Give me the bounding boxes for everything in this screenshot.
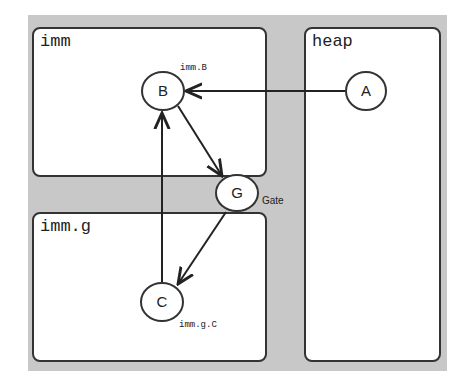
node-b: B imm.B xyxy=(142,63,208,110)
node-g-caption: Gate xyxy=(262,195,284,206)
node-c-label: C xyxy=(157,293,168,310)
graph-layer: B imm.B A G Gate C imm.g.C xyxy=(0,0,473,386)
node-c-caption: imm.g.C xyxy=(179,320,217,330)
node-b-label: B xyxy=(158,82,168,99)
node-g: G Gate xyxy=(216,175,284,211)
node-a-label: A xyxy=(361,82,371,99)
node-g-label: G xyxy=(231,184,243,201)
node-b-caption: imm.B xyxy=(180,63,208,73)
node-a: A xyxy=(346,72,386,110)
edge-g-to-c xyxy=(178,212,226,284)
edge-b-to-g xyxy=(178,106,222,176)
node-c: C imm.g.C xyxy=(141,283,217,330)
